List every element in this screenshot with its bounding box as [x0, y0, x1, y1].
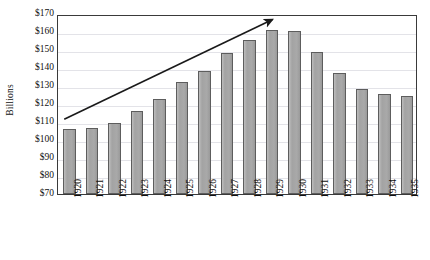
x-axis-tick-label: 1935 — [410, 179, 420, 198]
y-axis-tick-labels: $170$160$150$140$130$120$110$100$90$80$7… — [18, 13, 54, 195]
plot-area — [57, 15, 417, 195]
x-axis-tick-label: 1930 — [298, 179, 308, 198]
y-axis-tick-label: $80 — [40, 171, 54, 181]
x-axis-tick-label: 1926 — [208, 179, 218, 198]
x-axis-tick-label: 1933 — [365, 179, 375, 198]
bar — [311, 52, 324, 194]
y-axis-tick-label: $90 — [40, 153, 54, 163]
y-axis-tick-label: $120 — [35, 99, 54, 109]
bar — [266, 30, 279, 194]
bar — [176, 82, 189, 195]
x-axis-tick-label: 1928 — [253, 179, 263, 198]
x-axis-tick-label: 1924 — [163, 179, 173, 198]
bar — [288, 31, 301, 194]
bar — [221, 53, 234, 194]
y-axis-tick-label: $140 — [35, 63, 54, 73]
y-axis-tick-label: $150 — [35, 45, 54, 55]
bar-series — [58, 16, 416, 194]
bar-chart: Billions $170$160$150$140$130$120$110$10… — [0, 0, 430, 260]
x-axis-tick-label: 1925 — [185, 179, 195, 198]
x-axis-tick-label: 1932 — [343, 179, 353, 198]
y-axis-tick-label: $160 — [35, 27, 54, 37]
y-axis-tick-label: $100 — [35, 135, 54, 145]
x-axis-tick-label: 1920 — [73, 179, 83, 198]
y-axis-tick-label: $70 — [40, 189, 54, 199]
bar — [333, 73, 346, 194]
y-axis-tick-label: $170 — [35, 9, 54, 19]
x-axis-tick-label: 1934 — [388, 179, 398, 198]
y-axis-tick-label: $110 — [35, 117, 54, 127]
x-axis-tick-label: 1929 — [275, 179, 285, 198]
x-axis-tick-label: 1931 — [320, 179, 330, 198]
x-axis-tick-labels: 1920192119221923192419251926192719281929… — [57, 198, 417, 258]
x-axis-tick-label: 1927 — [230, 179, 240, 198]
y-axis-tick-label: $130 — [35, 81, 54, 91]
bar — [198, 71, 211, 194]
x-axis-tick-label: 1922 — [118, 179, 128, 198]
x-axis-tick-label: 1921 — [95, 179, 105, 198]
x-axis-tick-label: 1923 — [140, 179, 150, 198]
bar — [243, 40, 256, 194]
